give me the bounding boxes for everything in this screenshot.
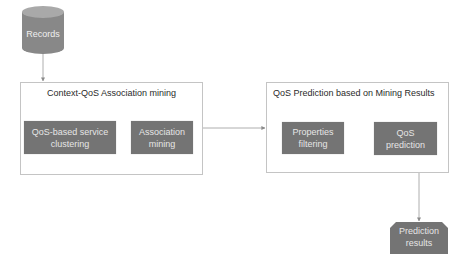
group-title: QoS Prediction based on Mining Results [273,87,448,99]
prediction-results-node: Prediction results [390,222,448,254]
step-qos-prediction: QoS prediction [374,122,437,155]
step-association-mining: Association mining [131,121,193,154]
step-properties-filtering: Properties filtering [282,122,344,154]
group-title: Context-QoS Association mining [21,87,202,99]
step-qos-based-service-clustering: QoS-based service clustering [24,121,116,154]
diagram-canvas: Records Context-QoS Association mining Q… [0,0,467,265]
records-label: Records [22,28,64,40]
prediction-results-label: Prediction results [390,225,448,249]
records-database-node: Records [22,6,64,54]
